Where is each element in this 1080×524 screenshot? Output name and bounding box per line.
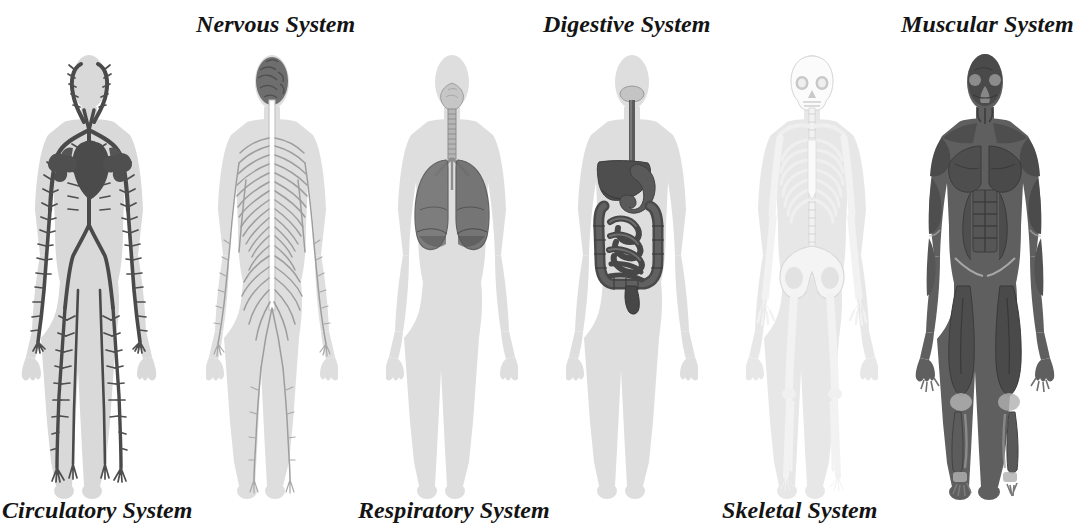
figure-circulatory	[18, 50, 160, 500]
esophagus	[629, 100, 635, 162]
label-skeletal-system: Skeletal System	[722, 497, 877, 524]
body-silhouette	[22, 55, 157, 499]
circulatory-svg	[18, 50, 160, 500]
figure-muscular	[915, 50, 1055, 500]
spinal-cord	[269, 100, 275, 310]
respiratory-svg	[386, 50, 518, 500]
label-circulatory-system: Circulatory System	[2, 497, 192, 524]
figure-digestive	[566, 50, 698, 500]
label-digestive-system: Digestive System	[543, 11, 711, 38]
mouth-cavity	[620, 86, 644, 102]
label-respiratory-system: Respiratory System	[358, 497, 550, 524]
label-nervous-system: Nervous System	[196, 11, 355, 38]
sternum	[808, 140, 816, 200]
nervous-svg	[206, 50, 338, 500]
facial-muscles	[968, 54, 1002, 106]
brain-organ	[256, 57, 288, 105]
skull	[791, 56, 833, 110]
digestive-svg	[566, 50, 698, 500]
figure-nervous	[206, 50, 338, 500]
figure-skeletal	[746, 50, 878, 500]
muscular-svg	[915, 50, 1055, 500]
trachea	[448, 109, 456, 159]
skeletal-svg	[746, 50, 878, 500]
label-muscular-system: Muscular System	[901, 11, 1074, 38]
figure-respiratory	[386, 50, 518, 500]
abdominals	[963, 190, 1007, 260]
